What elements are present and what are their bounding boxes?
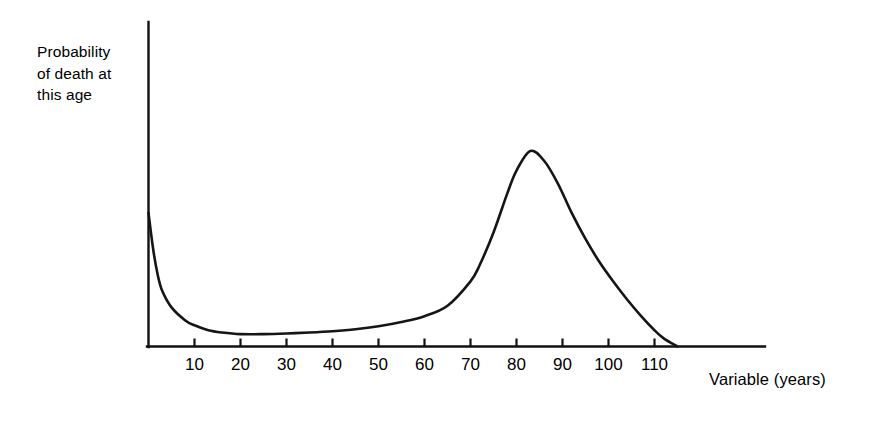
- mortality-probability-figure: Probability of death at this age 1020304…: [0, 0, 891, 422]
- x-axis-tick-label: 70: [461, 355, 480, 374]
- x-axis-tick-label: 30: [277, 355, 296, 374]
- x-axis-tick-label: 10: [185, 355, 204, 374]
- x-axis-tick-label: 110: [641, 355, 668, 374]
- x-axis-tick-label: 90: [553, 355, 572, 374]
- x-axis-tick-label: 100: [594, 355, 622, 374]
- x-axis-tick-label: 50: [369, 355, 388, 374]
- x-axis-tick-label: 60: [415, 355, 434, 374]
- x-axis-tick-label: 40: [323, 355, 342, 374]
- x-axis-label: Variable (years): [709, 370, 826, 389]
- plot-area: 102030405060708090100110: [0, 0, 891, 422]
- x-axis-tick-label: 20: [231, 355, 250, 374]
- mortality-curve: [149, 151, 678, 347]
- x-axis-tick-labels: 102030405060708090100110: [185, 355, 668, 374]
- x-axis-tick-label: 80: [507, 355, 526, 374]
